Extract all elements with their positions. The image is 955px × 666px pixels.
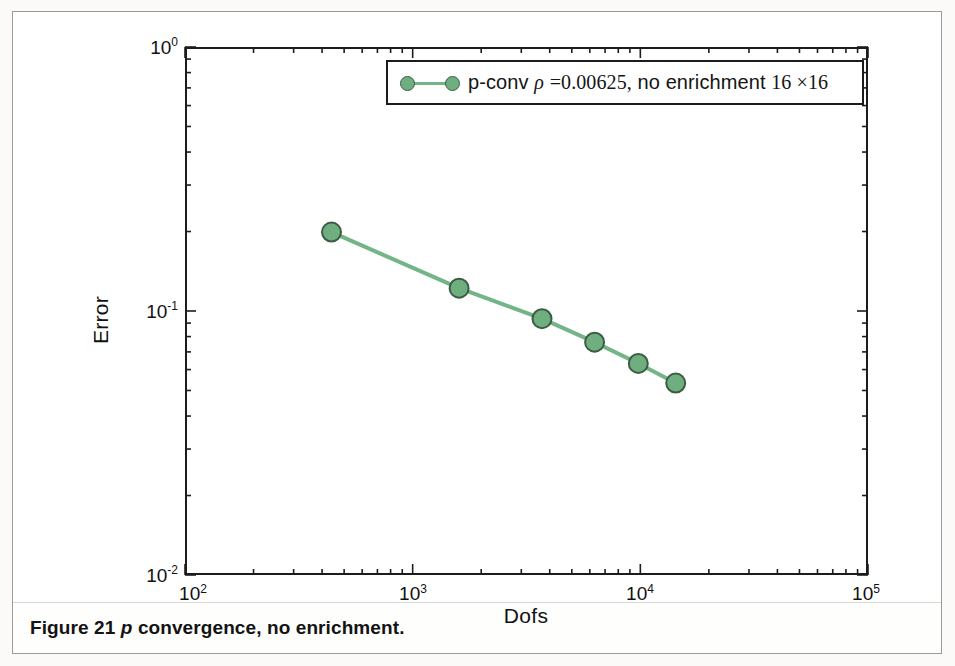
legend-middle: no enrichment — [638, 71, 766, 93]
scanned-page: 100 10-1 10-2 102 103 104 105 Error Dofs — [0, 0, 955, 666]
y-tick-label-0: 100 — [123, 35, 178, 58]
legend-marker-icon-left — [400, 76, 415, 91]
figure-caption: Figure 21 p convergence, no enrichment. — [30, 617, 405, 639]
legend-rho-symbol: ρ — [534, 71, 544, 93]
caption-italic-p: p — [121, 617, 133, 638]
figure-area: 100 10-1 10-2 102 103 104 105 Error Dofs — [13, 12, 941, 602]
y-tick-label-1: 10-1 — [123, 299, 178, 322]
legend-rho-value: =0.00625, — [550, 71, 632, 93]
y-tick-label-2: 10-2 — [123, 563, 178, 586]
caption-rest: convergence, no enrichment. — [138, 617, 405, 638]
caption-divider — [13, 602, 941, 603]
x-axis-title: Dofs — [504, 604, 548, 628]
y-axis-title: Error — [89, 296, 113, 344]
plot-frame — [185, 47, 868, 575]
caption-prefix: Figure 21 — [30, 617, 115, 638]
legend-entry-label: p-conv ρ =0.00625, no enrichment 16 ×16 — [468, 71, 828, 94]
legend-box: p-conv ρ =0.00625, no enrichment 16 ×16 — [386, 60, 864, 105]
legend-marker-icon-right — [445, 76, 460, 91]
legend-sample — [400, 73, 460, 93]
legend-grid: 16 ×16 — [771, 71, 828, 93]
legend-prefix: p-conv — [468, 71, 529, 93]
